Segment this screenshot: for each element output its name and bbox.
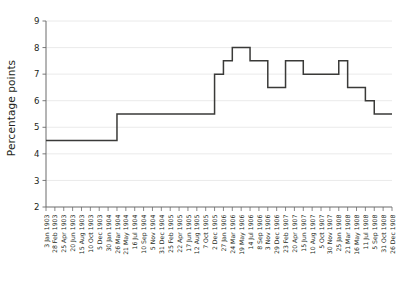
x-axis-ticks-group (46, 207, 392, 211)
x-axis-tick-label: 29 Dec 1906 (273, 214, 280, 254)
y-axis-tick-label: 3 (34, 176, 39, 186)
x-axis-tick-label: 10 Sep 1904 (140, 214, 148, 253)
series-line (46, 48, 392, 141)
x-axis-tick-label: 7 Oct 1905 (202, 214, 209, 248)
x-axis-tick-label: 11 Jul 1908 (362, 214, 370, 249)
x-axis-tick-label: 2 Dec 1905 (211, 214, 218, 250)
x-axis-tick-label: 20 Jun 1903 (69, 214, 77, 251)
y-axis-ticks-group: 23456789 (34, 16, 46, 212)
x-axis-tick-label: 28 Feb 1903 (51, 214, 58, 253)
x-axis-tick-label: 10 Aug 1907 (309, 214, 317, 254)
x-axis-tick-label: 19 May 1906 (238, 214, 246, 254)
x-axis-tick-label: 8 Sep 1906 (256, 214, 264, 249)
x-axis-tick-label: 31 Oct 1908 (380, 214, 387, 252)
x-axis-tick-label: 20 Apr 1907 (291, 214, 299, 252)
x-axis-tick-label: 16 Jul 1904 (131, 214, 139, 249)
data-series-group (46, 48, 392, 141)
x-axis-tick-label: 21 Mar 1908 (344, 214, 351, 253)
y-axis-tick-label: 6 (34, 96, 39, 106)
x-axis-tick-label: 21 May 1904 (122, 214, 130, 254)
gridlines-group (46, 21, 392, 180)
x-axis-tick-label: 5 Dec 1903 (96, 214, 103, 250)
x-axis-tick-label: 31 Dec 1904 (158, 214, 165, 254)
x-axis-tick-label: 14 Jul 1906 (247, 214, 255, 249)
x-axis-tick-label: 24 Mar 1906 (229, 214, 236, 253)
x-axis-tick-label: 5 Oct 1907 (318, 214, 325, 248)
x-axis-tick-label: 25 Apr 1903 (60, 214, 68, 252)
x-axis-tick-label: 15 Aug 1903 (78, 214, 86, 254)
y-axis-tick-label: 8 (34, 43, 39, 53)
axis-lines-group (46, 21, 392, 207)
x-axis-tick-label: 30 Nov 1907 (326, 214, 333, 254)
x-axis-tick-label: 5 Nov 1904 (149, 214, 156, 250)
y-axis-tick-label: 7 (34, 69, 39, 79)
x-axis-tick-label: 17 Jun 1905 (185, 214, 193, 251)
x-axis-tick-label: 10 Oct 1903 (87, 214, 94, 252)
x-axis-tick-label: 3 Jan 1903 (43, 214, 51, 247)
x-axis-tick-label: 26 Dec 1908 (389, 214, 396, 254)
x-axis-tick-label: 27 Jan 1906 (220, 214, 228, 251)
x-axis-tick-label: 25 Feb 1905 (167, 214, 174, 253)
x-axis-tick-label: 26 Mar 1904 (114, 214, 121, 253)
y-axis-tick-label: 4 (34, 149, 39, 159)
y-axis-tick-label: 5 (34, 122, 39, 132)
x-axis-tick-label: 15 Jun 1907 (300, 214, 308, 251)
x-axis-labels-group: 3 Jan 190328 Feb 190325 Apr 190320 Jun 1… (43, 214, 396, 254)
x-axis-tick-label: 12 Aug 1905 (193, 214, 201, 254)
line-chart-plot: 23456789 3 Jan 190328 Feb 190325 Apr 190… (0, 0, 415, 288)
y-axis-tick-label: 2 (34, 202, 39, 212)
x-axis-tick-label: 30 Jan 1904 (105, 214, 113, 251)
chart-container: Percentage points 23456789 3 Jan 190328 … (0, 0, 415, 288)
x-axis-tick-label: 22 Apr 1905 (176, 214, 184, 252)
x-axis-tick-label: 23 Feb 1907 (282, 214, 289, 253)
x-axis-tick-label: 5 Sep 1908 (371, 214, 379, 249)
x-axis-tick-label: 25 Jan 1908 (335, 214, 343, 251)
y-axis-tick-label: 9 (34, 16, 39, 26)
x-axis-tick-label: 16 May 1908 (353, 214, 361, 254)
x-axis-tick-label: 3 Nov 1906 (264, 214, 271, 250)
